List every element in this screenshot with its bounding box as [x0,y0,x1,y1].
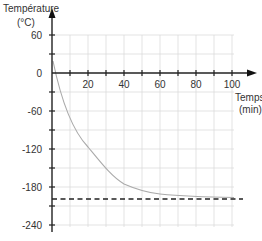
y-tick-label: 60 [12,30,42,41]
x-tick-label: 20 [76,79,100,90]
y-axis-unit: (°C) [17,17,35,28]
x-tick-label: 100 [220,79,244,90]
grid [52,35,234,227]
x-axis-title: Temps [235,92,262,103]
y-tick-label: -240 [12,220,42,231]
y-axis-title: Température [3,3,59,14]
y-tick-label: -60 [12,106,42,117]
x-tick-label: 80 [184,79,208,90]
x-tick-label: 60 [148,79,172,90]
y-tick-label: 0 [12,68,42,79]
chart: Température (°C) 60 0 -60 -120 -180 -240… [0,0,262,241]
x-tick-label: 40 [112,79,136,90]
y-tick-label: -120 [12,144,42,155]
y-tick-label: -180 [12,182,42,193]
x-axis [52,70,257,77]
x-axis-unit: (min) [239,104,262,115]
